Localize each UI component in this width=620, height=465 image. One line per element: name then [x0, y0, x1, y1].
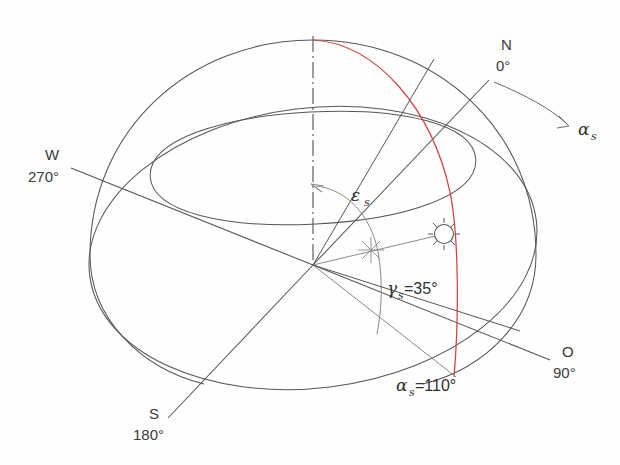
elevation-horizon-reference	[313, 265, 520, 331]
axis-line-north	[313, 80, 489, 265]
label-east: O	[562, 343, 574, 360]
label-azimuth-symbol: α	[578, 119, 590, 139]
label-zenith-angle-subscript: s	[364, 196, 370, 209]
axis-line-west	[71, 168, 313, 265]
label-zenith-angle-symbol: ε	[351, 185, 360, 205]
label-azimuth-value-symbol: α	[396, 375, 408, 395]
label-east-degrees: 90°	[553, 364, 576, 381]
label-elevation-symbol: γ	[387, 278, 398, 298]
label-south: S	[149, 405, 159, 422]
label-north: N	[501, 36, 512, 53]
arc-intersection-star-icon	[358, 237, 384, 263]
axis-line-south	[168, 265, 313, 418]
sun-path-arc	[313, 40, 457, 377]
label-azimuth-value: =110°	[415, 377, 456, 394]
zenith-angle-arc	[316, 186, 381, 334]
label-elevation-value: =35°	[404, 280, 438, 297]
diagram-root: N 0° O 90° S 180° W 270° α s ε s γ s =35…	[0, 0, 620, 465]
sun-path-diagram: N 0° O 90° S 180° W 270° α s ε s γ s =35…	[0, 0, 620, 465]
azimuth-direction-arrowhead-icon	[557, 116, 569, 128]
azimuth-direction-arrow	[494, 82, 567, 124]
label-west-degrees: 270°	[28, 168, 59, 185]
label-west: W	[45, 146, 60, 163]
zenith-angle-arrowhead-icon	[311, 184, 324, 192]
label-north-degrees: 0°	[496, 57, 510, 74]
label-south-degrees: 180°	[133, 426, 164, 443]
label-azimuth-subscript: s	[591, 130, 597, 143]
solar-direction-ray	[313, 234, 444, 265]
